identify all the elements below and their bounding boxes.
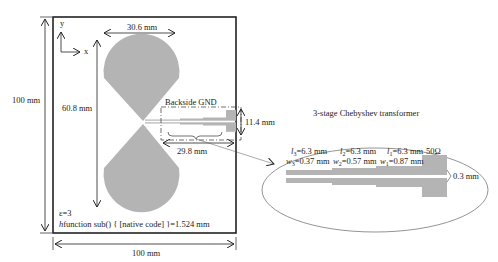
- transformer-brace: [168, 132, 222, 139]
- coordinate-axes-icon: [61, 32, 80, 52]
- ground-height-label: 11.4 mm: [245, 118, 275, 127]
- board-height-dimension: [40, 17, 52, 233]
- bowtie-lower-arm: [104, 124, 180, 212]
- board-height-label: 100 mm: [12, 96, 40, 105]
- bowtie-upper-arm: [104, 34, 180, 121]
- section-1-width: w1=0.87 mm: [380, 157, 424, 167]
- gap-indicator: [447, 170, 451, 182]
- permittivity-label: ε=3: [59, 209, 72, 218]
- feed-line: [145, 110, 236, 132]
- x-axis-label: x: [84, 47, 88, 56]
- antenna-width-label: 30.6 mm: [127, 23, 157, 32]
- antenna-length-label: 60.8 mm: [62, 104, 92, 113]
- gap-label: 0.3 mm: [453, 172, 479, 181]
- ground-label: Backside GND: [165, 98, 217, 107]
- inset-leader-arrow: [196, 139, 274, 164]
- ground-length-label: 29.8 mm: [177, 147, 207, 156]
- y-axis-label: y: [60, 19, 64, 28]
- board-width-label: 100 mm: [132, 249, 160, 258]
- port-impedance-label: 50Ω: [426, 147, 441, 156]
- section-2-width: w2=0.57 mm: [333, 157, 377, 167]
- inset-title: 3-stage Chebyshev transformer: [313, 109, 419, 118]
- thickness-label: hfunction sub() { [native code] }=1.524 …: [59, 220, 210, 229]
- section-3-width: w3=0.37 mm: [286, 157, 330, 167]
